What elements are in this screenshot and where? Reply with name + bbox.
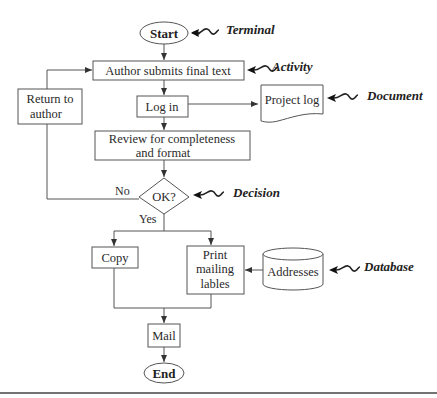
- ok-label: OK?: [152, 190, 176, 204]
- node-project-log: Project log: [261, 85, 323, 122]
- document-annotation: Document: [366, 88, 423, 103]
- node-log-in: Log in: [137, 96, 188, 117]
- node-review: Review for completeness and format: [95, 131, 250, 160]
- node-return-to-author: Return to author: [18, 89, 82, 124]
- log-in-label: Log in: [146, 100, 180, 114]
- edge-return-author: [47, 70, 92, 89]
- copy-label: Copy: [101, 251, 129, 265]
- database-top: [263, 248, 323, 260]
- node-start: Start: [140, 22, 188, 44]
- decision-annotation: Decision: [232, 185, 280, 200]
- node-author-submits: Author submits final text: [93, 61, 244, 80]
- node-addresses-database: Addresses: [263, 248, 323, 290]
- squiggle-arrow-icon: [200, 191, 224, 196]
- annotation-database: Database: [329, 259, 414, 274]
- review-label-line1: Review for completeness: [109, 132, 235, 146]
- review-label-line2: and format: [136, 146, 191, 160]
- annotation-document: Document: [327, 88, 423, 103]
- node-ok-decision: OK?: [139, 178, 189, 214]
- return-label-line2: author: [30, 107, 63, 121]
- print-label-line3: lables: [200, 277, 229, 291]
- squiggle-arrow-icon: [334, 94, 358, 99]
- return-label-line1: Return to: [27, 92, 74, 106]
- activity-annotation: Activity: [271, 59, 313, 74]
- node-copy: Copy: [92, 247, 138, 268]
- annotation-terminal: Terminal: [191, 22, 275, 37]
- database-annotation: Database: [363, 259, 414, 274]
- edge-label-yes: Yes: [139, 212, 157, 226]
- flowchart-diagram: Start Author submits final text Log in P…: [0, 0, 437, 398]
- arrowhead-icon: [191, 29, 199, 37]
- project-log-label: Project log: [265, 93, 320, 107]
- node-print-mailing-lables: Print mailing lables: [187, 246, 244, 294]
- addresses-label: Addresses: [267, 265, 319, 279]
- squiggle-arrow-icon: [336, 266, 360, 271]
- end-label: End: [152, 366, 176, 381]
- node-end: End: [144, 363, 184, 383]
- terminal-annotation: Terminal: [226, 22, 275, 37]
- print-label-line1: Print: [203, 248, 228, 262]
- annotation-activity: Activity: [247, 59, 313, 74]
- node-mail: Mail: [148, 324, 180, 347]
- print-label-line2: mailing: [196, 262, 235, 276]
- annotation-decision: Decision: [193, 185, 280, 200]
- edge-label-no: No: [115, 184, 130, 198]
- start-label: Start: [150, 26, 179, 41]
- author-submits-label: Author submits final text: [105, 64, 231, 78]
- mail-label: Mail: [152, 329, 176, 343]
